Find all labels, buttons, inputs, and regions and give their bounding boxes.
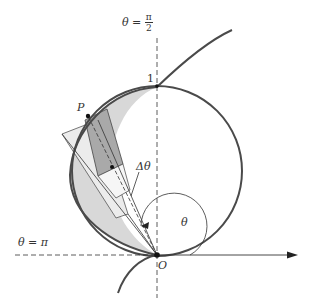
polar-area-figure: θ = π2 1 P Δθ θ θ = π O xyxy=(0,0,310,300)
label-theta-pi: θ = π xyxy=(18,236,48,249)
label-theta: θ xyxy=(181,216,188,229)
label-p: P xyxy=(77,101,84,114)
delta-theta-pointer xyxy=(131,172,139,196)
point-p xyxy=(86,114,90,118)
label-origin: O xyxy=(158,259,167,272)
label-theta-half-pi: θ = π2 xyxy=(122,12,153,33)
figure-canvas xyxy=(0,0,310,300)
arrow-head-icon xyxy=(287,252,298,259)
label-one: 1 xyxy=(147,72,154,85)
label-delta-theta: Δθ xyxy=(136,160,151,173)
point-inner xyxy=(110,165,114,169)
origin-point xyxy=(154,252,160,258)
point-one xyxy=(155,84,159,88)
